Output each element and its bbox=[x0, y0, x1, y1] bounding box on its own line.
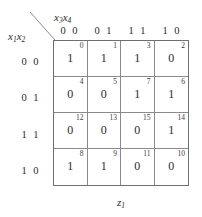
kmap-cell[interactable]: 110 bbox=[121, 149, 155, 185]
cell-value: 1 bbox=[88, 160, 121, 172]
kmap-grid: 01 11 31 20 40 50 71 61 120 130 150 141 … bbox=[53, 40, 189, 186]
cell-minterm-index: 0 bbox=[80, 42, 84, 50]
row-header-0: 0 0 bbox=[14, 56, 48, 67]
column-header-0: 0 0 bbox=[53, 25, 87, 36]
cell-minterm-index: 1 bbox=[113, 42, 117, 50]
karnaugh-map-figure: x3x4 x1x2 0 0 0 1 1 1 1 0 0 0 0 1 1 1 1 … bbox=[0, 0, 202, 217]
kmap-cell[interactable]: 141 bbox=[155, 113, 189, 149]
cell-value: 0 bbox=[155, 52, 189, 64]
column-header-1: 0 1 bbox=[87, 25, 121, 36]
kmap-cell[interactable]: 81 bbox=[54, 149, 88, 185]
row-header-1: 0 1 bbox=[14, 92, 48, 103]
cell-value: 0 bbox=[54, 88, 87, 100]
cell-value: 0 bbox=[54, 124, 87, 136]
cell-value: 1 bbox=[121, 52, 154, 64]
cell-minterm-index: 13 bbox=[110, 114, 118, 122]
cell-minterm-index: 4 bbox=[80, 78, 84, 86]
row-header-2: 1 1 bbox=[14, 129, 48, 140]
row-header-3: 1 0 bbox=[14, 165, 48, 176]
kmap-cell[interactable]: 120 bbox=[54, 113, 88, 149]
kmap-cell[interactable]: 100 bbox=[155, 149, 189, 185]
cell-minterm-index: 10 bbox=[178, 150, 186, 158]
kmap-cell[interactable]: 91 bbox=[88, 149, 122, 185]
kmap-cell[interactable]: 61 bbox=[155, 77, 189, 113]
cell-minterm-index: 6 bbox=[181, 78, 185, 86]
cell-minterm-index: 3 bbox=[147, 42, 151, 50]
cell-value: 1 bbox=[88, 52, 121, 64]
kmap-cell[interactable]: 130 bbox=[88, 113, 122, 149]
kmap-cell[interactable]: 31 bbox=[121, 41, 155, 77]
column-header-3: 1 0 bbox=[155, 25, 189, 36]
cell-minterm-index: 15 bbox=[143, 114, 151, 122]
cell-minterm-index: 9 bbox=[113, 150, 117, 158]
cell-minterm-index: 14 bbox=[178, 114, 186, 122]
cell-minterm-index: 2 bbox=[181, 42, 185, 50]
column-axis-label: x3x4 bbox=[54, 12, 71, 23]
kmap-cell[interactable]: 40 bbox=[54, 77, 88, 113]
cell-minterm-index: 11 bbox=[143, 150, 150, 158]
column-header-2: 1 1 bbox=[121, 25, 155, 36]
kmap-cell[interactable]: 01 bbox=[54, 41, 88, 77]
kmap-cell[interactable]: 150 bbox=[121, 113, 155, 149]
kmap-cell[interactable]: 71 bbox=[121, 77, 155, 113]
kmap-cell[interactable]: 50 bbox=[88, 77, 122, 113]
cell-minterm-index: 5 bbox=[113, 78, 117, 86]
cell-value: 0 bbox=[121, 160, 154, 172]
cell-value: 0 bbox=[88, 88, 121, 100]
cell-minterm-index: 7 bbox=[147, 78, 151, 86]
cell-value: 0 bbox=[88, 124, 121, 136]
kmap-cell[interactable]: 11 bbox=[88, 41, 122, 77]
cell-value: 1 bbox=[155, 88, 189, 100]
figure-caption: z1 bbox=[53, 196, 189, 208]
cell-value: 0 bbox=[121, 124, 154, 136]
cell-minterm-index: 12 bbox=[76, 114, 84, 122]
cell-value: 1 bbox=[121, 88, 154, 100]
cell-value: 1 bbox=[54, 52, 87, 64]
kmap-cell[interactable]: 20 bbox=[155, 41, 189, 77]
cell-value: 0 bbox=[155, 160, 189, 172]
row-axis-label: x1x2 bbox=[8, 31, 25, 42]
cell-value: 1 bbox=[54, 160, 87, 172]
caption-subscript: 1 bbox=[121, 201, 125, 210]
cell-minterm-index: 8 bbox=[80, 150, 84, 158]
cell-value: 1 bbox=[155, 124, 189, 136]
